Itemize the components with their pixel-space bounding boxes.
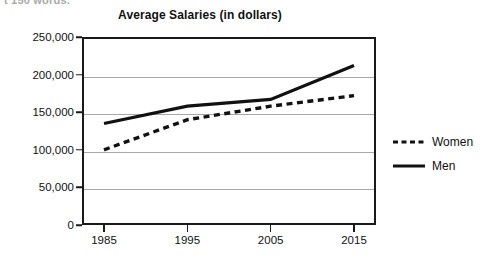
- dashed-line-swatch: [392, 137, 426, 147]
- x-tick-label: 2015: [341, 234, 367, 246]
- x-tick-label: 2005: [258, 234, 284, 246]
- chart-legend: Women Men: [392, 130, 484, 178]
- y-tick-label: 150,000: [32, 106, 74, 118]
- series-layer: [82, 37, 376, 225]
- x-axis-tick-marks: [82, 225, 376, 232]
- chart-title: Average Salaries (in dollars): [0, 8, 400, 22]
- y-tick-label: 200,000: [32, 69, 74, 81]
- legend-item-men: Men: [392, 154, 484, 178]
- x-tick-mark: [270, 225, 272, 232]
- x-axis-labels: 1985199520052015: [82, 234, 376, 252]
- y-tick-label: 0: [68, 219, 74, 231]
- legend-label-men: Men: [432, 159, 455, 173]
- y-axis-labels: 250,000200,000150,000100,00050,0000: [0, 37, 74, 225]
- y-tick-label: 250,000: [32, 31, 74, 43]
- x-tick-label: 1985: [91, 234, 117, 246]
- x-tick-mark: [187, 225, 189, 232]
- y-tick-label: 100,000: [32, 144, 74, 156]
- x-tick-mark: [103, 225, 105, 232]
- y-tick-label: 50,000: [39, 181, 74, 193]
- legend-item-women: Women: [392, 130, 484, 154]
- series-line-men: [104, 66, 354, 124]
- x-tick-label: 1995: [175, 234, 201, 246]
- solid-line-swatch: [392, 161, 426, 171]
- x-tick-mark: [353, 225, 355, 232]
- line-chart-figure: Average Salaries (in dollars) 250,000200…: [0, 0, 484, 274]
- legend-label-women: Women: [432, 135, 473, 149]
